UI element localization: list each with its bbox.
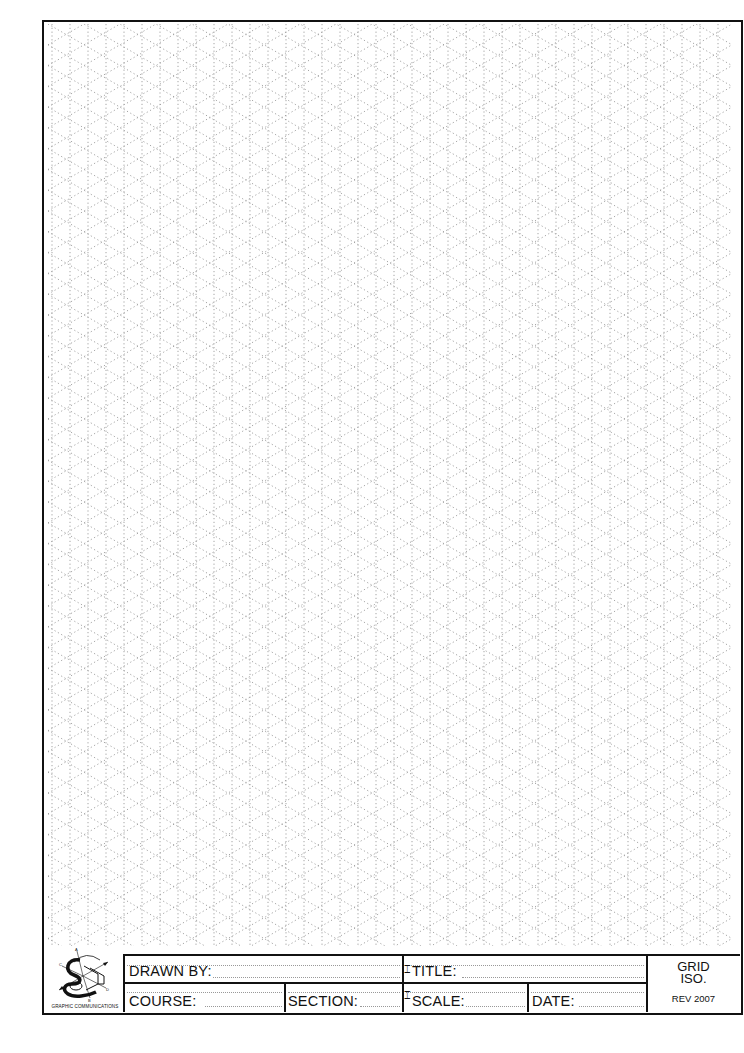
course-field[interactable]: COURSE:	[125, 984, 284, 1012]
drawn-by-field[interactable]: DRAWN BY:	[125, 956, 402, 982]
title-field[interactable]: TITLE: ⌶	[404, 956, 646, 982]
scale-label: SCALE:	[412, 993, 465, 1009]
date-label: DATE:	[532, 993, 575, 1009]
text-height-marker-icon: ⌶	[404, 990, 411, 1001]
scale-field[interactable]: SCALE: ⌶	[404, 984, 527, 1012]
date-field[interactable]: DATE:	[529, 984, 646, 1012]
section-field[interactable]: SECTION:	[286, 984, 402, 1012]
sheet-type-cell: GRID ISO. REV 2007	[649, 957, 738, 1004]
svg-text:C: C	[59, 962, 62, 967]
logo-caption: GRAPHIC COMMUNICATIONS	[47, 1004, 123, 1009]
svg-text:B: B	[88, 998, 91, 1003]
sheet-type-line2: ISO.	[649, 973, 738, 985]
svg-text:D: D	[106, 987, 109, 992]
graphic-communications-logo-icon: A C B D	[46, 948, 122, 1010]
title-block-divider-grid	[646, 954, 648, 1012]
course-label: COURSE:	[129, 993, 196, 1009]
text-height-marker-icon: ⌶	[404, 964, 411, 975]
svg-text:A: A	[75, 948, 78, 952]
revision-label: REV 2007	[649, 993, 738, 1004]
isometric-grid	[48, 24, 732, 946]
section-label: SECTION:	[288, 993, 358, 1009]
